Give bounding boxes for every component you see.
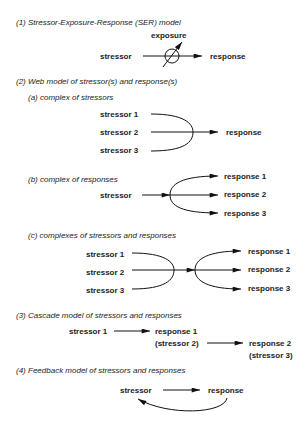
stressor-2-label: (stressor 2): [155, 339, 199, 348]
stressor-3-label: (stressor 3): [249, 351, 293, 360]
response-1-arrow: [170, 176, 218, 195]
feedback-arrow: [138, 398, 227, 411]
complex-stressors-heading: (a) complex of stressors: [28, 93, 113, 102]
exposure-label: exposure: [151, 31, 187, 40]
stressor-label: stressor: [100, 52, 132, 61]
response-1-arrow: [195, 251, 241, 270]
ser-heading: (1) Stressor-Exposure-Response (SER) mod…: [16, 18, 181, 27]
response-label: response: [226, 128, 262, 137]
response-label: response: [210, 52, 246, 61]
complexes-heading: (c) complexes of stressors and responses: [28, 231, 176, 240]
stressor-1-label: stressor 1: [86, 250, 125, 259]
response-1-label: response 1: [224, 172, 267, 181]
section-complex-of-responses: (b) complex of responses stressor respon…: [28, 172, 267, 218]
stressor-merge-curve: [132, 253, 174, 289]
section-feedback-model: (4) Feedback model of stressors and resp…: [16, 366, 244, 411]
stressor-label: stressor: [100, 191, 132, 200]
stressor-label: stressor: [120, 386, 152, 395]
stressor-response-diagram: (1) Stressor-Exposure-Response (SER) mod…: [0, 0, 305, 423]
stressor-3-label: stressor 3: [100, 146, 139, 155]
response-1-label: response 1: [155, 327, 198, 336]
stressor-3-label: stressor 3: [86, 286, 125, 295]
stressor-1-label: stressor 1: [100, 110, 139, 119]
section-complex-of-stressors: (a) complex of stressors stressor 1 stre…: [28, 93, 262, 155]
section-complexes-stressors-responses: (c) complexes of stressors and responses…: [28, 231, 291, 295]
response-3-label: response 3: [224, 209, 267, 218]
web-model-heading: (2) Web model of stressor(s) and respons…: [16, 77, 178, 86]
response-2-label: response 2: [248, 265, 291, 274]
stressor-2-label: stressor 2: [86, 268, 125, 277]
response-2-label: response 2: [224, 190, 267, 199]
stressor-2-label: stressor 2: [100, 128, 139, 137]
complex-responses-heading: (b) complex of responses: [28, 175, 118, 184]
response-2-label: response 2: [249, 339, 292, 348]
response-1-label: response 1: [248, 247, 291, 256]
stressor-1-label: stressor 1: [69, 327, 108, 336]
feedback-heading: (4) Feedback model of stressors and resp…: [16, 366, 185, 375]
response-label: response: [208, 386, 244, 395]
cascade-heading: (3) Cascade model of stressors and respo…: [16, 311, 182, 320]
section-ser-model: (1) Stressor-Exposure-Response (SER) mod…: [16, 18, 246, 67]
response-3-label: response 3: [248, 284, 291, 293]
response-3-arrow: [195, 270, 241, 289]
response-3-arrow: [170, 195, 218, 213]
section-cascade-model: (3) Cascade model of stressors and respo…: [16, 311, 293, 360]
